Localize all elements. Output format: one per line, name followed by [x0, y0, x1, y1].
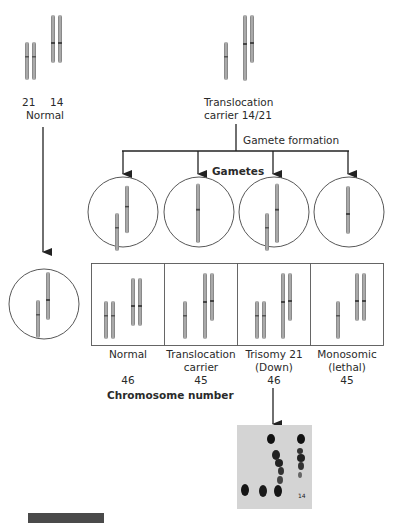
carrier-caption-line1: Translocation: [204, 96, 273, 108]
offspring-2-count: 46: [238, 374, 310, 386]
offspring-3-count: 45: [311, 374, 383, 386]
offspring-chromosomes: [104, 273, 366, 339]
label-21: 21: [22, 96, 35, 108]
offspring-0-count: 46: [92, 374, 164, 386]
gametes-heading: Gametes: [212, 165, 264, 177]
normal-parent-chromosomes: [25, 15, 62, 80]
offspring-1-name: Translocation: [165, 348, 237, 360]
offspring-1-name2: carrier: [165, 361, 237, 373]
chromosome-number-label: Chromosome number: [107, 389, 234, 401]
normal-parent-caption: Normal: [26, 109, 64, 121]
zygote-circle: [9, 269, 79, 339]
zygote-chromosomes: [36, 272, 50, 338]
label-14: 14: [50, 96, 63, 108]
offspring-2-name: Trisomy 21: [238, 348, 310, 360]
photo-chromosome-label: 14: [298, 492, 306, 499]
offspring-3-name2: (lethal): [311, 361, 383, 373]
carrier-caption-line2: carrier 14/21: [204, 109, 272, 121]
offspring-1-count: 45: [165, 374, 237, 386]
offspring-2-name2: (Down): [238, 361, 310, 373]
diagram-graphics: [0, 0, 395, 523]
offspring-0-name: Normal: [92, 348, 164, 360]
gamete-formation-label: Gamete formation: [243, 134, 339, 146]
scale-bar: [28, 513, 104, 523]
offspring-3-name: Monosomic: [311, 348, 383, 360]
carrier-parent-chromosomes: [224, 15, 254, 81]
gamete-circles: [88, 177, 384, 247]
